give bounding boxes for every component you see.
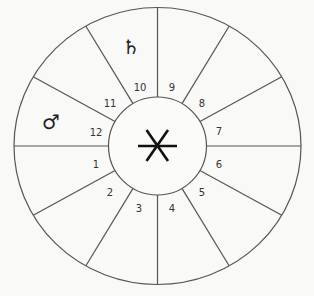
house-number-3: 3 [136,204,142,214]
house-wheel-chart: 123456789101112 ♄♂ [0,0,314,296]
house-divider-line [33,171,115,216]
mars-icon: ♂ [42,112,60,132]
house-divider-line [182,26,229,104]
house-divider-line [86,188,133,266]
saturn-icon: ♄ [122,37,140,57]
wheel-graphic [0,0,314,296]
house-divider-line [182,188,229,266]
house-number-9: 9 [169,83,175,93]
house-number-10: 10 [134,83,147,93]
house-number-8: 8 [199,99,205,109]
house-number-12: 12 [90,128,103,138]
house-number-4: 4 [169,204,175,214]
house-divider-line [200,171,282,216]
house-divider-line [200,77,282,122]
house-number-7: 7 [216,127,222,137]
house-number-1: 1 [93,160,99,170]
house-number-2: 2 [107,188,113,198]
house-number-5: 5 [199,188,205,198]
house-number-11: 11 [104,99,117,109]
house-number-6: 6 [216,160,222,170]
